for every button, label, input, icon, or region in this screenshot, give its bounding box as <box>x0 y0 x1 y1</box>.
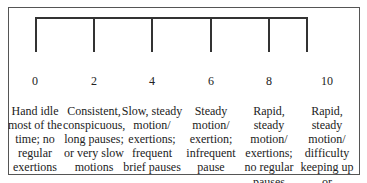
scale-level-6: 6 Steady motion/ exertion; infrequent pa… <box>180 60 242 175</box>
scale-axis-line <box>35 17 307 19</box>
level-value: 6 <box>180 74 242 88</box>
level-value: 10 <box>295 74 359 88</box>
scale-tick-4 <box>151 17 153 52</box>
level-value: 0 <box>4 74 66 88</box>
level-description: Steady motion/ exertion; infrequent paus… <box>186 104 235 175</box>
scale-tick-6 <box>210 17 212 52</box>
scale-tick-2 <box>93 17 95 52</box>
scale-level-4: 4 Slow, steady motion/ exertions; freque… <box>121 60 183 175</box>
scale-level-2: 2 Consistent, conspicuous, long pauses; … <box>63 60 125 175</box>
level-description: Slow, steady motion/ exertions; frequent… <box>122 104 183 175</box>
level-description: Rapid, steady motion/ exertions; no regu… <box>245 104 294 183</box>
scale-level-0: 0 Hand idle most of the time; no regular… <box>4 60 66 175</box>
level-description: Hand idle most of the time; no regular e… <box>8 104 62 175</box>
level-description: Rapid, steady motion/ difficulty keeping… <box>301 104 354 183</box>
scale-level-8: 8 Rapid, steady motion/ exertions; no re… <box>238 60 300 183</box>
scale-tick-8 <box>268 17 270 52</box>
level-value: 8 <box>238 74 300 88</box>
scale-tick-0 <box>35 17 37 52</box>
level-description: Consistent, conspicuous, long pauses; or… <box>63 104 125 175</box>
scale-level-10: 10 Rapid, steady motion/ difficulty keep… <box>295 60 359 183</box>
scale-tick-10 <box>306 17 308 52</box>
level-value: 4 <box>121 74 183 88</box>
level-value: 2 <box>63 74 125 88</box>
